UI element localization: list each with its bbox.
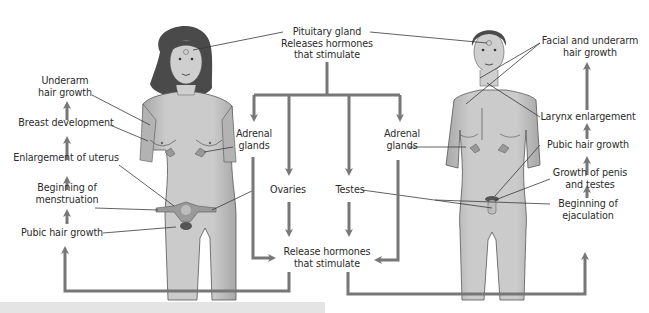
female-uterus-label: Enlargement of uterus: [6, 152, 126, 164]
pituitary-line3: that stimulate: [280, 49, 374, 61]
male-penis-line1: Growth of penis: [548, 167, 632, 179]
female-figure: [140, 26, 236, 300]
adrenal-left-label: Adrenal glands: [230, 128, 278, 151]
male-ejaculation-line2: ejaculation: [550, 210, 626, 222]
pituitary-line2: Releases hormones: [280, 38, 374, 50]
puberty-hormone-diagram: Pituitary gland Releases hormones that s…: [0, 0, 649, 313]
female-underarm-line2: hair growth: [20, 87, 110, 99]
release-line2: that stimulate: [272, 258, 382, 270]
female-menstruation-label: Beginning of menstruation: [22, 182, 112, 205]
pituitary-label: Pituitary gland Releases hormones that s…: [280, 26, 374, 61]
testes-label: Testes: [322, 184, 378, 196]
adrenal-right-line2: glands: [378, 140, 426, 152]
male-penis-testes-label: Growth of penis and testes: [548, 167, 632, 190]
male-facial-label: Facial and underarm hair growth: [534, 35, 646, 58]
adrenal-right-label: Adrenal glands: [378, 128, 426, 151]
female-breast-label: Breast development: [10, 117, 122, 129]
male-pubic-label: Pubic hair growth: [542, 139, 634, 151]
pituitary-line1: Pituitary gland: [280, 26, 374, 38]
adrenal-left-line1: Adrenal: [230, 128, 278, 140]
male-facial-line1: Facial and underarm: [534, 35, 646, 47]
female-pubic-label: Pubic hair growth: [12, 227, 112, 239]
adrenal-right-line1: Adrenal: [378, 128, 426, 140]
female-menstruation-line1: Beginning of: [22, 182, 112, 194]
caption-bar: [0, 302, 325, 313]
male-facial-line2: hair growth: [534, 47, 646, 59]
female-underarm-label: Underarm hair growth: [20, 75, 110, 98]
adrenal-left-line2: glands: [230, 140, 278, 152]
female-menstruation-line2: menstruation: [22, 194, 112, 206]
male-larynx-label: Larynx enlargement: [538, 111, 638, 123]
male-ejaculation-line1: Beginning of: [550, 198, 626, 210]
male-ejaculation-label: Beginning of ejaculation: [550, 198, 626, 221]
release-hormones-label: Release hormones that stimulate: [272, 246, 382, 269]
female-underarm-line1: Underarm: [20, 75, 110, 87]
male-penis-line2: and testes: [548, 179, 632, 191]
release-line1: Release hormones: [272, 246, 382, 258]
ovaries-label: Ovaries: [258, 184, 318, 196]
